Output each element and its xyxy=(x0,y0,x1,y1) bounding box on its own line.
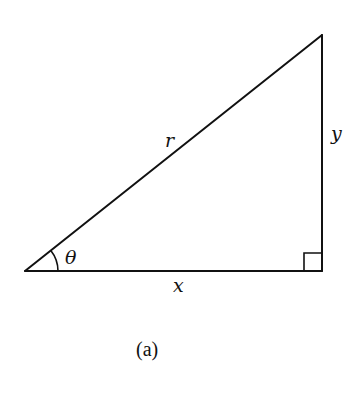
angle-label-theta: θ xyxy=(65,246,77,268)
opposite-label-y: y xyxy=(330,122,342,144)
right-triangle-diagram: θ r y x (a) xyxy=(0,0,358,394)
right-angle-marker xyxy=(304,253,322,271)
figure-caption: (a) xyxy=(136,338,158,361)
hypotenuse-label-r: r xyxy=(165,129,176,151)
adjacent-label-x: x xyxy=(173,274,184,296)
hypotenuse-edge xyxy=(25,35,322,271)
angle-arc xyxy=(51,250,58,271)
